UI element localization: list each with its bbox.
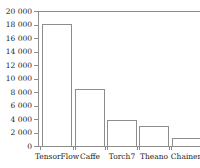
y-axis-label: 2 000 bbox=[0, 129, 32, 137]
y-axis-label: 14 000 bbox=[0, 48, 32, 56]
y-axis-tick bbox=[34, 92, 38, 93]
x-axis-tick bbox=[169, 146, 170, 150]
y-axis-tick bbox=[34, 25, 38, 26]
bar-torch7[interactable] bbox=[107, 120, 137, 147]
y-axis-line bbox=[38, 11, 39, 147]
x-axis-label-caffe: Caffe bbox=[80, 153, 100, 161]
y-axis-tick bbox=[34, 133, 38, 134]
plot-top-border bbox=[38, 11, 200, 12]
x-axis-label-torch7: Torch7 bbox=[109, 153, 135, 161]
bar-theano[interactable] bbox=[139, 126, 169, 147]
x-axis-tick bbox=[105, 146, 106, 150]
y-axis-label: 18 000 bbox=[0, 21, 32, 29]
y-axis-label: 20 000 bbox=[0, 8, 32, 16]
y-axis-label: 8 000 bbox=[0, 89, 32, 97]
y-axis-tick bbox=[34, 146, 38, 147]
y-axis-tick bbox=[34, 106, 38, 107]
y-axis-label: 12 000 bbox=[0, 62, 32, 70]
bar-caffe[interactable] bbox=[75, 89, 105, 147]
bar-tensorflow[interactable] bbox=[42, 24, 72, 147]
y-axis-tick bbox=[34, 79, 38, 80]
x-axis-label-tensorflow: TensorFlow bbox=[35, 153, 79, 161]
x-axis-tick bbox=[73, 146, 74, 150]
y-axis-label: 10 000 bbox=[0, 75, 32, 83]
x-axis-tick bbox=[137, 146, 138, 150]
x-axis-label-theano: Theano bbox=[140, 153, 168, 161]
y-axis-tick bbox=[34, 52, 38, 53]
y-axis-tick bbox=[34, 38, 38, 39]
y-axis-label: 0 bbox=[0, 143, 32, 151]
x-axis-label-chainer: Chainer bbox=[171, 153, 200, 161]
y-axis-tick bbox=[34, 11, 38, 12]
y-axis-label: 4 000 bbox=[0, 116, 32, 124]
y-axis-tick bbox=[34, 119, 38, 120]
y-axis-label: 6 000 bbox=[0, 102, 32, 110]
bar-chart: 20 000 18 000 16 000 14 000 12 000 10 00… bbox=[0, 0, 200, 168]
bar-chainer[interactable] bbox=[172, 138, 200, 147]
y-axis-tick bbox=[34, 65, 38, 66]
x-axis-tick bbox=[40, 146, 41, 150]
y-axis-label: 16 000 bbox=[0, 35, 32, 43]
